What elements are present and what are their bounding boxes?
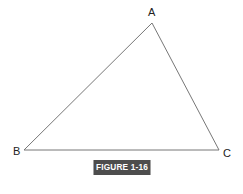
vertex-label-b: B <box>13 146 20 157</box>
vertex-label-c: C <box>223 148 231 159</box>
figure-caption: FIGURE 1-16 <box>93 160 150 175</box>
vertex-label-a: A <box>148 7 155 18</box>
triangle-abc <box>24 23 219 150</box>
